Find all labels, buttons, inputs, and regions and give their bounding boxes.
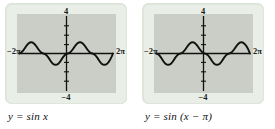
graph-panel-sin-x-minus-pi: 4 −4 −2π 2π <box>142 3 264 104</box>
y-min-label: −4 <box>142 93 264 102</box>
plot-area-sin-x-minus-pi <box>142 3 264 104</box>
y-max-label: 4 <box>5 7 127 16</box>
caption-sin-x: y = sin x <box>8 110 48 122</box>
x-min-label: −2π <box>7 47 21 56</box>
sine-graph-figure: 4 −4 −2π 2π y = sin x 4 −4 −2π 2π <box>0 0 275 129</box>
y-min-label: −4 <box>5 93 127 102</box>
plot-area-sin-x <box>5 3 127 104</box>
x-max-label: 2π <box>253 47 262 56</box>
x-max-label: 2π <box>116 47 125 56</box>
y-max-label: 4 <box>142 7 264 16</box>
graph-panel-sin-x: 4 −4 −2π 2π <box>5 3 127 104</box>
caption-sin-x-minus-pi: y = sin (x − π) <box>145 110 212 122</box>
x-min-label: −2π <box>144 47 158 56</box>
